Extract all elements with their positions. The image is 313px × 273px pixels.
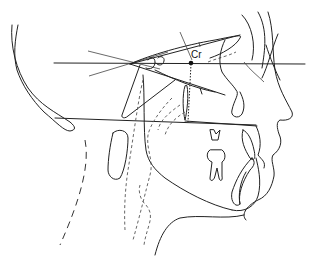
maxillary-plane bbox=[185, 121, 257, 126]
orbit-contour bbox=[220, 40, 244, 117]
cephalometric-diagram: Cr bbox=[0, 0, 313, 273]
lower-incisor bbox=[232, 158, 255, 205]
vertical-dotted-line bbox=[188, 64, 191, 122]
vertebra-dashed-1 bbox=[125, 80, 143, 230]
cr-label: Cr bbox=[191, 49, 202, 60]
condyle-outline bbox=[108, 130, 128, 179]
posterior-dashed-contour bbox=[60, 140, 86, 245]
sella-turcica bbox=[146, 57, 164, 69]
upper-incisor bbox=[242, 130, 255, 160]
pterygoid-fissure bbox=[183, 86, 188, 120]
molar-tooth bbox=[207, 130, 225, 180]
nasal-bone bbox=[242, 15, 254, 60]
reference-line-upper bbox=[88, 51, 160, 69]
throat-contour bbox=[155, 215, 244, 255]
symphysis-inner bbox=[239, 172, 246, 204]
cranial-base-line bbox=[130, 35, 240, 64]
neck-contour bbox=[12, 25, 75, 131]
soft-tissue-forehead bbox=[258, 12, 265, 68]
mandible-chin bbox=[232, 158, 260, 211]
vertebra-dashed-3 bbox=[158, 105, 185, 135]
nasal-crossing bbox=[244, 62, 264, 82]
ramus-anterior bbox=[122, 65, 175, 118]
soft-tissue-nose bbox=[244, 12, 292, 220]
vertebra-dashed-2 bbox=[133, 98, 172, 240]
